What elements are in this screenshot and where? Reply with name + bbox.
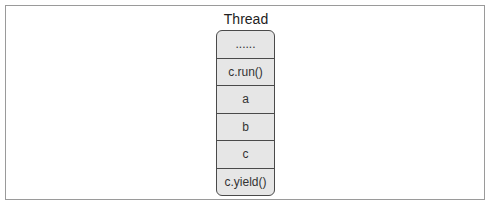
stack-frame-c: c xyxy=(217,141,274,169)
thread-stack: ...... c.run() a b c c.yield() xyxy=(216,30,275,196)
thread-title: Thread xyxy=(196,11,296,27)
stack-frame-b: b xyxy=(217,114,274,142)
stack-frame-yield: c.yield() xyxy=(217,169,274,196)
stack-frame-ellipsis: ...... xyxy=(217,31,274,59)
stack-frame-run: c.run() xyxy=(217,59,274,87)
stack-frame-a: a xyxy=(217,86,274,114)
